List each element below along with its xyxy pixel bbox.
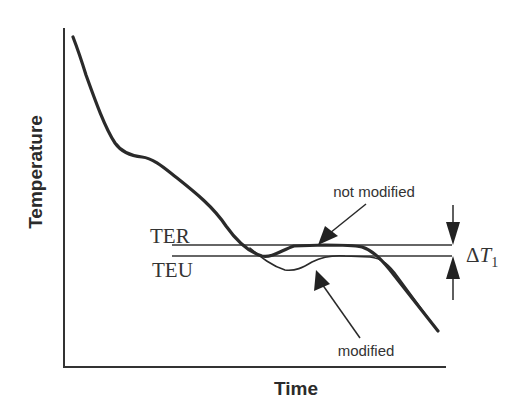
modified-arrowhead-icon — [314, 270, 330, 291]
not-modified-label: not modified — [333, 183, 415, 200]
modified-label: modified — [338, 342, 395, 359]
ter-label: TER — [150, 224, 190, 248]
modified-pointer — [322, 284, 360, 338]
delta-subscript: 1 — [491, 255, 498, 270]
x-axis-label: Time — [274, 378, 318, 399]
y-axis-label: Temperature — [25, 115, 46, 229]
delta-top-arrowhead-icon — [446, 222, 460, 245]
not-modified-pointer — [330, 204, 366, 233]
cooling-curve-diagram: Time Temperature TER TEU not modified mo… — [0, 0, 523, 417]
delta-symbol: Δ — [466, 243, 480, 267]
teu-label: TEU — [152, 258, 193, 282]
modified-curve — [250, 248, 437, 330]
delta-bottom-arrowhead-icon — [446, 256, 460, 279]
delta-t-label: ΔT1 — [466, 243, 498, 270]
